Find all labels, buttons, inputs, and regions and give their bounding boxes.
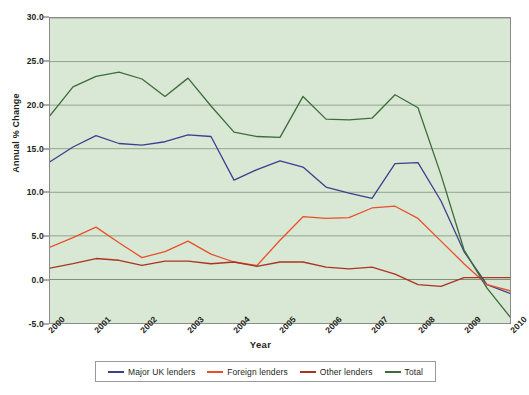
series-line-other-lenders xyxy=(50,259,510,287)
legend-item: Other lenders xyxy=(300,367,373,377)
y-tick-label: -5.0 xyxy=(0,319,44,329)
series-lines xyxy=(50,72,510,317)
y-tick-label: 15.0 xyxy=(0,144,44,154)
legend-label: Total xyxy=(405,367,423,377)
plot-area xyxy=(49,17,511,324)
y-tick-label: 25.0 xyxy=(0,56,44,66)
x-tick-label: 2010 xyxy=(508,314,529,335)
legend-swatch-icon xyxy=(300,371,316,373)
y-tick-label: 10.0 xyxy=(0,187,44,197)
legend-swatch-icon xyxy=(385,371,401,373)
y-tick-label: 20.0 xyxy=(0,100,44,110)
legend-swatch-icon xyxy=(108,371,124,373)
series-line-total xyxy=(50,72,510,317)
plot-canvas xyxy=(50,18,510,323)
series-line-major-uk-lenders xyxy=(50,135,510,294)
legend-label: Other lenders xyxy=(320,367,373,377)
legend-label: Foreign lenders xyxy=(227,367,288,377)
legend-label: Major UK lenders xyxy=(128,367,195,377)
y-tick-label: 30.0 xyxy=(0,12,44,22)
x-axis-title: Year xyxy=(0,339,521,350)
legend-item: Foreign lenders xyxy=(207,367,288,377)
chart-legend: Major UK lendersForeign lendersOther len… xyxy=(95,361,436,382)
y-tick-label: 0.0 xyxy=(0,275,44,285)
y-axis-title: Annual % Change xyxy=(11,73,21,193)
series-line-foreign-lenders xyxy=(50,206,510,291)
y-tick-label: 5.0 xyxy=(0,231,44,241)
legend-item: Total xyxy=(385,367,423,377)
legend-swatch-icon xyxy=(207,371,223,373)
legend-item: Major UK lenders xyxy=(108,367,195,377)
